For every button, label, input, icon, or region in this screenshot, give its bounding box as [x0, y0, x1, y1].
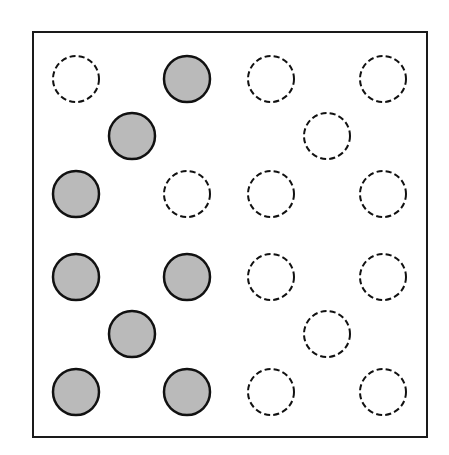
dashed-empty-circle	[164, 171, 210, 217]
filled-circle	[53, 369, 99, 415]
filled-circle	[164, 254, 210, 300]
dashed-empty-circle	[248, 254, 294, 300]
filled-circle	[53, 254, 99, 300]
filled-circle	[164, 369, 210, 415]
circle-pattern-diagram	[0, 0, 449, 455]
dashed-empty-circle	[304, 311, 350, 357]
dashed-empty-circle	[360, 56, 406, 102]
filled-circle	[109, 311, 155, 357]
filled-circle	[109, 113, 155, 159]
filled-circle	[53, 171, 99, 217]
dashed-empty-circle	[53, 56, 99, 102]
dashed-empty-circle	[360, 254, 406, 300]
dashed-empty-circle	[248, 56, 294, 102]
dashed-empty-circle	[304, 113, 350, 159]
dashed-empty-circle	[248, 171, 294, 217]
filled-circle	[164, 56, 210, 102]
dashed-empty-circle	[248, 369, 294, 415]
dashed-empty-circle	[360, 171, 406, 217]
circle-grid	[53, 56, 406, 415]
dashed-empty-circle	[360, 369, 406, 415]
